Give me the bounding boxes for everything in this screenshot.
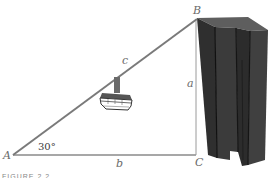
vertex-label-c: C (195, 157, 203, 168)
cable-car-triangle-diagram: B c a 30° A b C FIGURE 2.2 (0, 0, 273, 178)
figure-caption: FIGURE 2.2 (2, 173, 50, 178)
side-c-cable (13, 19, 197, 155)
building-left-face (197, 18, 217, 158)
right-triangle (13, 19, 197, 155)
vertex-label-b: B (193, 5, 201, 16)
angle-label: 30° (38, 142, 56, 152)
gondola (100, 77, 132, 110)
gondola-hanger (114, 77, 120, 93)
vertex-label-a: A (3, 150, 11, 161)
building-right-face (248, 30, 268, 165)
side-label-c: c (122, 55, 128, 66)
building-middle-face (215, 27, 238, 160)
gondola-cabin (100, 98, 132, 110)
side-label-b: b (116, 158, 123, 169)
side-label-a: a (187, 78, 194, 89)
building (197, 17, 268, 166)
